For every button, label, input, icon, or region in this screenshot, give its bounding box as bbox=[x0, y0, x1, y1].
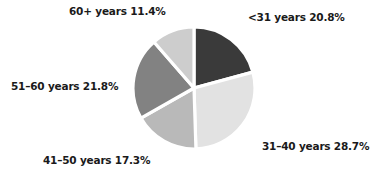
pie-label-60-plus: 60+ years 11.4% bbox=[69, 6, 166, 17]
pie-chart-figure: <31 years 20.8% 31–40 years 28.7% 41–50 … bbox=[0, 0, 390, 180]
pie-svg bbox=[131, 25, 257, 151]
pie-label-31-40: 31–40 years 28.7% bbox=[262, 141, 369, 152]
pie-chart-graphic bbox=[131, 25, 257, 151]
pie-slice-group bbox=[133, 27, 255, 149]
pie-label-51-60: 51–60 years 21.8% bbox=[11, 81, 118, 92]
pie-label-41-50: 41–50 years 17.3% bbox=[43, 155, 150, 166]
pie-label-lt-31: <31 years 20.8% bbox=[248, 12, 345, 23]
